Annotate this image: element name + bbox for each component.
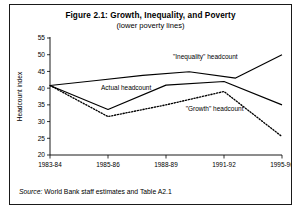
y-tick-label: 35 [38, 101, 46, 108]
y-tick-label: 25 [38, 135, 46, 142]
series-line [50, 85, 282, 136]
source-label: Source: [19, 188, 42, 195]
y-tick-label: 20 [38, 151, 46, 158]
line-chart: 2025303540455055 1983-841985-861988-8919… [10, 31, 291, 181]
x-tick-label: 1991-92 [212, 161, 236, 168]
figure-container: Figure 2.1: Growth, Inequality, and Pove… [9, 4, 292, 205]
x-tick-label: 1985-86 [96, 161, 120, 168]
y-tick-label: 40 [38, 85, 46, 92]
x-axis: 1983-841985-861988-891991-921995-96 [38, 155, 291, 168]
series-line [50, 55, 282, 86]
y-axis-title: Headcount index [16, 71, 23, 121]
x-tick-label: 1995-96 [270, 161, 291, 168]
series-annotation: "Growth" headcount [186, 105, 244, 112]
series-annotation: Actual headcount [101, 84, 151, 91]
y-tick-label: 45 [38, 68, 46, 75]
y-axis: 2025303540455055 [38, 34, 50, 158]
page-bottom-strip [0, 208, 302, 215]
chart-series-group [50, 55, 282, 137]
figure-subtitle: (lower poverty lines) [10, 21, 291, 31]
series-annotation: "Inequality" headcount [173, 53, 238, 61]
x-tick-label: 1988-89 [154, 161, 178, 168]
chart-plot-area: 2025303540455055 1983-841985-861988-8919… [10, 31, 291, 181]
source-note: Source: World Bank staff estimates and T… [19, 188, 172, 195]
figure-title: Figure 2.1: Growth, Inequality, and Pove… [10, 11, 291, 21]
y-tick-label: 55 [38, 34, 46, 41]
y-tick-label: 30 [38, 118, 46, 125]
source-text: World Bank staff estimates and Table A2.… [44, 188, 171, 195]
title-block: Figure 2.1: Growth, Inequality, and Pove… [10, 11, 291, 31]
y-tick-label: 50 [38, 51, 46, 58]
x-tick-label: 1983-84 [38, 161, 62, 168]
